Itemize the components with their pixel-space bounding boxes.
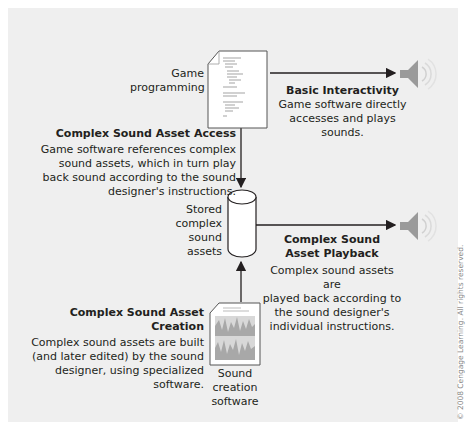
annotation-title: Complex Sound [262,233,402,247]
waveform-document-icon [209,302,261,366]
annotation-title: Complex Sound Asset Creation [14,306,204,334]
annotation-line: Complex sound assets are built [14,336,204,350]
label-line: complex [150,217,222,231]
label-line: Stored [150,203,222,217]
label-line: Sound [205,367,265,381]
asset-access-annotation: Complex Sound Asset Access Game software… [30,127,236,199]
game-programming-label: Game programming [130,67,204,95]
asset-playback-annotation: Complex Sound Asset Playback Complex sou… [262,233,402,334]
code-document-icon [207,50,269,130]
annotation-line: back sound according to the sound [30,171,236,185]
annotation-title: Complex Sound Asset Access [30,127,236,141]
asset-creation-annotation: Complex Sound Asset Creation Complex sou… [14,306,204,392]
annotation-line: Complex sound assets are [262,264,402,292]
label-line: programming [130,81,204,95]
sound-creation-label: Sound creation software [205,367,265,409]
annotation-line: designer, using specialized software. [14,364,204,392]
basic-interactivity-annotation: Basic Interactivity Game software direct… [275,84,410,140]
stored-assets-label: Stored complex sound assets [150,203,222,259]
annotation-line: designer's instructions. [30,185,236,199]
copyright-notice: © 2008 Cengage Learning. All rights rese… [456,245,465,420]
annotation-line: played back according to [262,292,402,306]
annotation-line: sound assets, which in turn play [30,157,236,171]
label-line: assets [150,245,222,259]
annotation-title: Asset Playback [262,247,402,261]
annotation-title: Basic Interactivity [275,84,410,98]
label-line: software [205,395,265,409]
label-line: sound [150,231,222,245]
speaker-icon [398,210,438,242]
annotation-line: Game software directly [275,98,410,112]
annotation-line: accesses and plays sounds. [275,112,410,140]
annotation-line: the sound designer's [262,306,402,320]
annotation-line: Game software references complex [30,143,236,157]
annotation-line: (and later edited) by the sound [14,350,204,364]
label-line: Game [130,67,204,81]
label-line: creation [205,381,265,395]
annotation-line: individual instructions. [262,320,402,334]
